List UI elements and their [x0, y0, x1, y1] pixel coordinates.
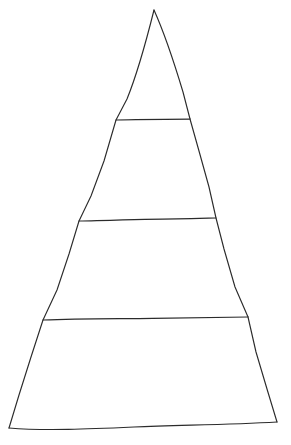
apex-level-fill	[116, 10, 190, 120]
pyramid-level-upper-middle[interactable]	[79, 119, 216, 221]
diagram-canvas	[0, 0, 291, 445]
base-level-fill	[9, 317, 277, 428]
pyramid-level-base[interactable]	[9, 317, 277, 428]
lower-middle-level-fill	[43, 218, 248, 320]
pyramid-diagram[interactable]	[0, 0, 291, 445]
pyramid-level-lower-middle[interactable]	[43, 218, 248, 320]
pyramid-level-apex[interactable]	[116, 10, 190, 120]
upper-middle-level-fill	[79, 119, 216, 221]
